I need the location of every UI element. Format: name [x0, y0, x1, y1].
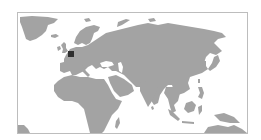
landmass-australia: [204, 125, 247, 133]
landmass-ireland: [57, 46, 61, 51]
landmass-java: [182, 121, 194, 124]
landmass-south-america: [18, 125, 30, 133]
landmass-svalbard: [84, 18, 91, 22]
landmass-borneo: [184, 101, 196, 113]
location-marker: [68, 51, 74, 57]
landmass-japan: [208, 55, 220, 71]
map-svg: [18, 13, 247, 133]
landmass-iceland: [51, 34, 59, 38]
landmass-new-guinea: [214, 113, 240, 123]
locator-map: [17, 12, 248, 134]
landmass-taiwan: [198, 79, 200, 83]
landmass-philippines: [198, 87, 204, 99]
landmass-madagascar: [115, 117, 120, 129]
landmass-novaya-zemlya: [117, 19, 130, 27]
landmass-great-britain: [61, 42, 68, 53]
landmass-sulawesi: [198, 105, 202, 115]
landmass-severnaya-zemlya: [148, 18, 156, 22]
landmass-sri-lanka: [151, 106, 154, 110]
landmass-southeast-asia: [164, 87, 180, 113]
